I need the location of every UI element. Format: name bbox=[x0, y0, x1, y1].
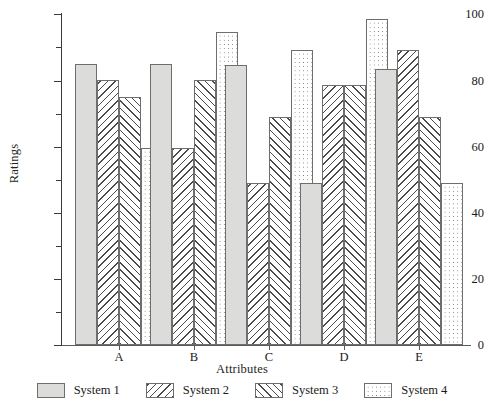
bar-C-system-3 bbox=[269, 117, 291, 345]
plot-area bbox=[62, 14, 470, 345]
bar-D-system-3 bbox=[344, 85, 366, 345]
y-tick-100 bbox=[54, 14, 62, 15]
x-axis-title: Attributes bbox=[0, 362, 484, 377]
bar-D-system-2 bbox=[322, 85, 344, 345]
y-axis-title: Ratings bbox=[7, 124, 22, 204]
legend-label-system-3: System 3 bbox=[292, 383, 338, 398]
legend-swatch-system-4 bbox=[364, 383, 392, 398]
legend-swatch-system-3 bbox=[255, 383, 283, 398]
y-tick-20 bbox=[54, 279, 62, 280]
bar-B-system-3 bbox=[194, 80, 216, 345]
legend-label-system-1: System 1 bbox=[74, 383, 120, 398]
y-tick-0 bbox=[54, 345, 62, 346]
legend-label-system-4: System 4 bbox=[401, 383, 447, 398]
bar-D-system-1 bbox=[300, 183, 322, 345]
bar-A-system-2 bbox=[97, 80, 119, 345]
y-tick-60 bbox=[54, 147, 62, 148]
bar-E-system-3 bbox=[419, 117, 441, 345]
legend-item-system-2: System 2 bbox=[146, 383, 229, 398]
legend-swatch-system-2 bbox=[146, 383, 174, 398]
bar-B-system-1 bbox=[150, 64, 172, 345]
legend-swatch-system-1 bbox=[37, 383, 65, 398]
bar-E-system-4 bbox=[441, 183, 463, 345]
y-tick-40 bbox=[54, 213, 62, 214]
bar-C-system-1 bbox=[225, 65, 247, 345]
bar-A-system-1 bbox=[75, 64, 97, 345]
legend-item-system-3: System 3 bbox=[255, 383, 338, 398]
y-tick-80 bbox=[54, 81, 62, 82]
bar-E-system-1 bbox=[375, 69, 397, 345]
bar-chart: Ratings 100 80 60 40 20 0 bbox=[0, 0, 484, 416]
legend-item-system-4: System 4 bbox=[364, 383, 447, 398]
x-axis-line bbox=[61, 345, 471, 346]
bar-B-system-2 bbox=[172, 148, 194, 345]
bar-C-system-2 bbox=[247, 183, 269, 345]
bar-E-system-2 bbox=[397, 50, 419, 345]
legend-label-system-2: System 2 bbox=[183, 383, 229, 398]
legend-item-system-1: System 1 bbox=[37, 383, 120, 398]
chart-legend: System 1 System 2 System 3 System 4 bbox=[0, 383, 484, 398]
bar-A-system-3 bbox=[119, 97, 141, 345]
